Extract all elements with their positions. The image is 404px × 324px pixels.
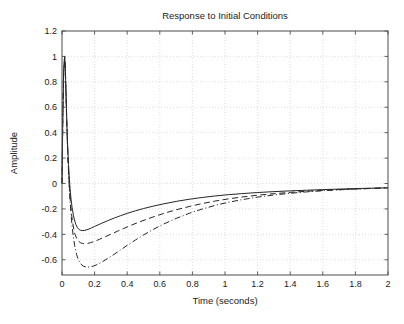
x-tick-label: 1.2	[251, 279, 264, 289]
x-tick-label: 2	[385, 279, 390, 289]
y-tick-label: 1.2	[44, 26, 57, 36]
x-tick-label: 0.2	[88, 279, 101, 289]
figure-canvas: 00.20.40.60.811.21.41.61.82 -0.6-0.4-0.2…	[0, 0, 404, 324]
x-tick-label: 1.8	[349, 279, 362, 289]
y-axis-label: Amplitude	[8, 132, 19, 174]
y-tick-label: -0.4	[41, 230, 57, 240]
y-tick-label: 0.8	[44, 77, 57, 87]
y-tick-label: 0.4	[44, 128, 57, 138]
chart-title: Response to Initial Conditions	[162, 10, 288, 21]
x-axis-label: Time (seconds)	[192, 295, 257, 306]
y-tick-label: 1	[52, 52, 57, 62]
y-tick-label: 0	[52, 179, 57, 189]
chart-plot[interactable]: 00.20.40.60.811.21.41.61.82 -0.6-0.4-0.2…	[0, 0, 404, 324]
x-tick-label: 0.8	[186, 279, 199, 289]
x-tick-label: 1.4	[284, 279, 297, 289]
y-tick-label: 0.6	[44, 102, 57, 112]
y-tick-label: -0.6	[41, 255, 57, 265]
y-tick-label: -0.2	[41, 204, 57, 214]
x-tick-label: 0.6	[154, 279, 167, 289]
x-tick-label: 0.4	[121, 279, 134, 289]
y-tick-label: 0.2	[44, 153, 57, 163]
x-tick-label: 1.6	[317, 279, 330, 289]
x-tick-label: 0	[59, 279, 64, 289]
x-tick-label: 1	[222, 279, 227, 289]
